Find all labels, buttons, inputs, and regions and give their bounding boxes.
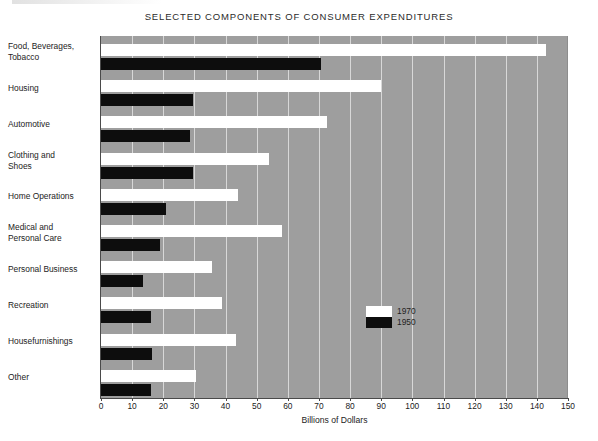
x-tick-label: 110 <box>437 401 450 411</box>
category-label-line: Housing <box>8 83 98 94</box>
bar-1970 <box>101 44 546 56</box>
bar-1950 <box>101 203 166 215</box>
bar-1950 <box>101 130 190 142</box>
chart-figure: SELECTED COMPONENTS OF CONSUMER EXPENDIT… <box>0 0 598 441</box>
x-axis-label: Billions of Dollars <box>101 415 568 425</box>
legend-item: 1970 <box>366 306 446 317</box>
bar-group <box>101 36 568 72</box>
plot-area: 19701950 <box>101 36 568 398</box>
category-label-line: Housefurnishings <box>8 336 98 347</box>
bar-group <box>101 145 568 181</box>
category-label: Home Operations <box>8 191 98 202</box>
bar-group <box>101 362 568 398</box>
bar-1970 <box>101 370 196 382</box>
scan-artifact <box>12 0 162 4</box>
bar-1950 <box>101 94 193 106</box>
category-label: Other <box>8 372 98 383</box>
legend-label: 1970 <box>397 306 416 317</box>
chart-title: SELECTED COMPONENTS OF CONSUMER EXPENDIT… <box>0 11 598 22</box>
x-tick-label: 140 <box>530 401 544 411</box>
x-tick-label: 100 <box>405 401 419 411</box>
bar-group <box>101 217 568 253</box>
bar-group <box>101 326 568 362</box>
x-tick-label: 50 <box>252 401 261 411</box>
category-label: Clothing andShoes <box>8 150 98 172</box>
category-label: Recreation <box>8 300 98 311</box>
x-axis-line <box>101 398 568 399</box>
category-label-line: Shoes <box>8 161 98 172</box>
bar-1970 <box>101 334 236 346</box>
category-label: Personal Business <box>8 264 98 275</box>
category-label-line: Recreation <box>8 300 98 311</box>
x-tick-label: 70 <box>314 401 323 411</box>
bar-1950 <box>101 275 143 287</box>
bar-1970 <box>101 116 327 128</box>
bar-1970 <box>101 80 381 92</box>
category-label-line: Personal Business <box>8 264 98 275</box>
bar-group <box>101 72 568 108</box>
x-tick-label: 0 <box>99 401 104 411</box>
bar-1970 <box>101 297 222 309</box>
bar-1970 <box>101 261 212 273</box>
bar-1970 <box>101 153 269 165</box>
x-tick-label: 20 <box>159 401 168 411</box>
bar-1970 <box>101 189 238 201</box>
bar-1950 <box>101 311 151 323</box>
bar-group <box>101 289 568 325</box>
category-label-line: Food, Beverages, <box>8 41 98 52</box>
category-label-line: Medical and <box>8 222 98 233</box>
bar-1950 <box>101 239 160 251</box>
legend-swatch-1970 <box>366 306 392 317</box>
bar-1950 <box>101 384 151 396</box>
x-tick-label: 130 <box>499 401 513 411</box>
category-label-line: Tobacco <box>8 52 98 63</box>
category-label-line: Other <box>8 372 98 383</box>
x-tick-label: 60 <box>283 401 292 411</box>
x-tick-label: 120 <box>468 401 482 411</box>
chart-legend: 19701950 <box>366 306 446 332</box>
category-label: Medical andPersonal Care <box>8 222 98 244</box>
bar-1970 <box>101 225 282 237</box>
category-label: Housefurnishings <box>8 336 98 347</box>
bar-1950 <box>101 348 152 360</box>
bar-1950 <box>101 167 193 179</box>
legend-swatch-1950 <box>366 317 392 328</box>
legend-item: 1950 <box>366 317 446 328</box>
y-axis-line <box>100 36 101 399</box>
legend-label: 1950 <box>397 317 416 328</box>
category-label-line: Automotive <box>8 119 98 130</box>
bar-group <box>101 253 568 289</box>
category-label: Automotive <box>8 119 98 130</box>
plot-right-border <box>567 36 568 399</box>
x-tick-label: 90 <box>377 401 386 411</box>
x-tick-label: 40 <box>221 401 230 411</box>
category-label: Housing <box>8 83 98 94</box>
bar-1950 <box>101 58 321 70</box>
category-label-line: Home Operations <box>8 191 98 202</box>
x-tick-label: 150 <box>561 401 575 411</box>
x-tick-label: 30 <box>190 401 199 411</box>
x-tick-label: 80 <box>345 401 354 411</box>
bar-group <box>101 181 568 217</box>
x-tick-label: 10 <box>127 401 136 411</box>
category-label-line: Personal Care <box>8 233 98 244</box>
category-label: Food, Beverages,Tobacco <box>8 41 98 63</box>
bar-group <box>101 108 568 144</box>
category-label-line: Clothing and <box>8 150 98 161</box>
